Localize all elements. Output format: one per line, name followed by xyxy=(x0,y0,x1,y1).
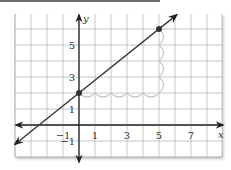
data-point xyxy=(76,90,82,96)
x-tick-label: 7 xyxy=(188,130,194,141)
y-tick-label: −1 xyxy=(60,136,75,147)
y-axis-label: y xyxy=(82,13,89,24)
x-tick-label: 1 xyxy=(92,130,98,141)
x-tick-label: 3 xyxy=(124,130,130,141)
x-axis-label: x xyxy=(218,129,224,140)
data-point xyxy=(156,26,162,32)
chart: xy−11357−1135 xyxy=(0,0,231,170)
y-tick-label: 3 xyxy=(69,72,75,83)
y-tick-label: 1 xyxy=(69,104,75,115)
y-tick-label: 5 xyxy=(69,40,75,51)
x-tick-label: 5 xyxy=(156,130,162,141)
